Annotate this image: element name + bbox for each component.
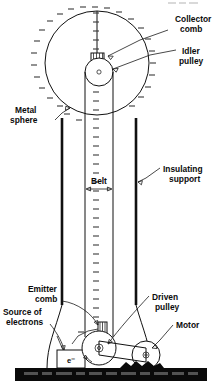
belt <box>85 72 113 337</box>
label-idler-pulley-line2: pulley <box>179 56 204 66</box>
top-watermark <box>168 2 198 4</box>
label-driven-pulley-line2: pulley <box>155 302 180 312</box>
motor-leader <box>152 325 173 349</box>
metal-sphere-leader <box>55 106 70 120</box>
idler-pulley-leader <box>113 50 176 72</box>
idler-pulley <box>85 58 113 86</box>
label-metal-sphere-line2: sphere <box>10 115 38 125</box>
label-collector-comb-line1: Collector <box>175 14 212 24</box>
belt-dimension <box>86 187 112 191</box>
label-source-of-electrons-line2: electrons <box>6 317 44 327</box>
label-insulating-support-line1: Insulating <box>163 164 203 174</box>
insulating-support-leader <box>138 168 160 185</box>
diagram-canvas: e⁻ <box>0 0 222 388</box>
label-collector-comb-line2: comb <box>180 24 202 34</box>
label-emitter-comb-line1: Emitter <box>28 284 58 294</box>
emitter-comb-leader <box>62 301 98 325</box>
label-insulating-support-line2: support <box>169 174 200 184</box>
label-idler-pulley-line1: Idler <box>182 46 200 56</box>
label-emitter-comb-line2: comb <box>35 294 57 304</box>
label-source-of-electrons-line1: Source of <box>3 307 42 317</box>
van-de-graaff-diagram: e⁻ <box>0 0 222 388</box>
collector-comb-leader <box>108 30 168 60</box>
label-driven-pulley-line1: Driven <box>152 292 178 302</box>
label-metal-sphere-line1: Metal <box>15 105 36 115</box>
electron-symbol: e⁻ <box>67 356 75 365</box>
driven-pulley-leader <box>108 296 149 344</box>
label-belt: Belt <box>91 176 107 186</box>
label-motor: Motor <box>176 320 200 330</box>
